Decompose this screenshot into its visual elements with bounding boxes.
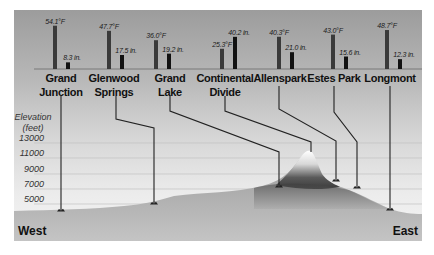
precipitation-bar — [344, 57, 348, 69]
leader-line — [225, 96, 311, 152]
elevation-tick: 11000 — [20, 148, 44, 158]
east-label: East — [393, 224, 418, 238]
mountain-shadow — [254, 184, 390, 209]
town-name: Grand — [46, 72, 77, 84]
mountain-peak — [276, 151, 340, 189]
precipitation-bar — [120, 55, 124, 69]
temperature-bar — [385, 30, 389, 69]
precipitation-bar — [66, 62, 70, 69]
temperature-value: 43.0°F — [323, 27, 343, 34]
leader-line — [334, 86, 357, 187]
town-name: Allenspark — [253, 72, 307, 84]
precipitation-value: 15.6 in. — [339, 49, 361, 56]
elevation-tick: 9000 — [24, 164, 44, 174]
elevation-axis-title: Elevation — [14, 112, 51, 122]
temperature-bar — [53, 26, 57, 69]
precipitation-bar — [290, 52, 294, 69]
town-name: Junction — [39, 86, 83, 98]
precipitation-value: 17.5 in. — [115, 47, 137, 54]
temperature-value: 36.0°F — [146, 32, 166, 39]
elevation-climate-diagram: Elevation(feet)1300011000900070005000 54… — [14, 10, 422, 241]
precipitation-value: 8.3 in. — [63, 54, 81, 61]
town-name: Lake — [158, 86, 182, 98]
town-name: Divide — [209, 86, 240, 98]
diagram-canvas: Elevation(feet)1300011000900070005000 54… — [14, 10, 422, 241]
temperature-bar — [154, 40, 158, 69]
town-name: Glenwood — [89, 72, 140, 84]
town-name: Estes Park — [307, 72, 361, 84]
town-labels: GrandJunctionGlenwoodSpringsGrandLakeCon… — [39, 72, 416, 98]
temperature-bar — [331, 35, 335, 69]
west-label: West — [18, 224, 46, 238]
elevation-axis-unit: (feet) — [22, 123, 43, 133]
temperature-bar — [220, 49, 224, 69]
climate-bars: 54.1°F8.3 in.47.7°F17.5 in.36.0°F19.2 in… — [45, 18, 415, 69]
temperature-value: 48.7°F — [377, 22, 397, 29]
precipitation-bar — [167, 54, 171, 69]
precipitation-bar — [398, 59, 402, 69]
elevation-tick: 7000 — [24, 179, 44, 189]
elevation-tick: 13000 — [19, 133, 44, 143]
precipitation-value: 19.2 in. — [162, 46, 184, 53]
precipitation-value: 12.3 in. — [393, 51, 415, 58]
precipitation-value: 40.2 in. — [228, 29, 250, 36]
precipitation-bar — [233, 37, 237, 69]
town-name: Springs — [95, 86, 134, 98]
town-name: Longmont — [364, 72, 416, 84]
precipitation-value: 21.0 in. — [284, 44, 307, 51]
elevation-tick: 5000 — [24, 194, 44, 204]
town-name: Grand — [155, 72, 186, 84]
temperature-bar — [277, 37, 281, 69]
temperature-value: 25.3°F — [211, 41, 232, 48]
leader-line — [116, 96, 154, 203]
temperature-value: 54.1°F — [45, 18, 65, 25]
town-name: Continental — [196, 72, 253, 84]
temperature-value: 40.3°F — [269, 29, 289, 36]
temperature-value: 47.7°F — [99, 23, 119, 30]
temperature-bar — [107, 31, 111, 69]
